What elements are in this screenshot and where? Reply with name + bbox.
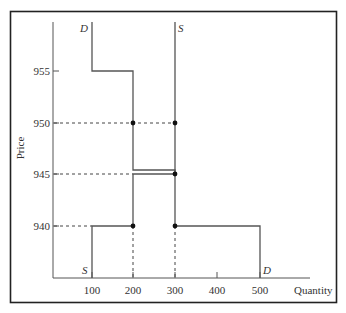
x-axis-title: Quantity: [294, 284, 333, 296]
y-tick-label-945: 945: [34, 168, 51, 180]
y-tick-label-940: 940: [34, 220, 51, 232]
step-supply-demand-chart: 955 950 945 940 100 200 300 400 500 Quan…: [0, 0, 346, 313]
supply-label-bottom: S: [82, 264, 88, 276]
reference-lines: [54, 123, 175, 278]
x-tick-label-200: 200: [125, 284, 142, 296]
demand-curve: [92, 22, 260, 278]
x-tick-label-400: 400: [209, 284, 226, 296]
y-ticks: [53, 71, 59, 226]
chart-frame: [11, 12, 337, 303]
demand-label-bottom: D: [262, 264, 271, 276]
x-tick-label-500: 500: [252, 284, 269, 296]
y-axis-title: Price: [14, 137, 26, 160]
x-tick-label-300: 300: [167, 284, 184, 296]
demand-label-top: D: [79, 22, 88, 34]
y-tick-label-950: 950: [34, 117, 51, 129]
supply-label-top: S: [178, 22, 184, 34]
y-tick-label-955: 955: [34, 65, 51, 77]
x-ticks: [92, 272, 260, 278]
x-tick-label-100: 100: [84, 284, 101, 296]
